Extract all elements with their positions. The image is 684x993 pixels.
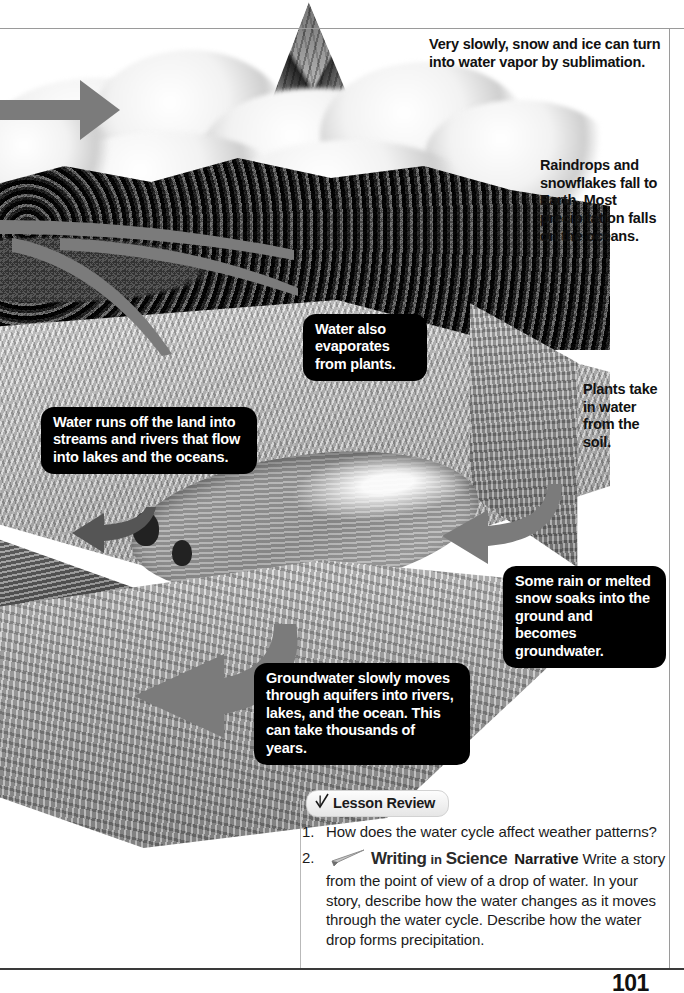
- footer-rule: [0, 968, 684, 970]
- question-number: 2.: [302, 848, 326, 950]
- pencil-icon: [326, 849, 366, 872]
- callout-text: Some rain or melted snow soaks into the …: [515, 573, 651, 659]
- question-item: 2. WritinginScienceNarrative Write a sto…: [302, 848, 672, 950]
- page-number: 101: [612, 970, 649, 993]
- arrow-precipitation-into-lake: [440, 480, 570, 570]
- writing-brand-science: Science: [446, 849, 507, 868]
- question-text: How does the water cycle affect weather …: [326, 822, 657, 842]
- writing-brand-writing: Writing: [371, 849, 426, 868]
- textbook-page: Water also evaporates from plants. Water…: [0, 0, 684, 993]
- water-cycle-diagram: Water also evaporates from plants. Water…: [0, 0, 684, 860]
- arrow-vapor-rise-3: [12, 236, 192, 356]
- callout-infiltration: Some rain or melted snow soaks into the …: [503, 566, 666, 668]
- callout-text: Water runs off the land into streams and…: [53, 414, 240, 465]
- label-sublimation: Very slowly, snow and ice can turn into …: [429, 36, 669, 71]
- lesson-review-title: Lesson Review: [333, 795, 435, 811]
- label-text: Plants take in water from the soil.: [583, 381, 657, 450]
- label-plant-uptake: Plants take in water from the soil.: [583, 381, 669, 452]
- question-text-writing: WritinginScienceNarrative Write a story …: [326, 848, 672, 950]
- writing-brand-in: in: [430, 852, 441, 867]
- question-number: 1.: [302, 822, 326, 842]
- callout-transpiration: Water also evaporates from plants.: [303, 314, 427, 381]
- label-text: Very slowly, snow and ice can turn into …: [429, 36, 660, 70]
- callout-runoff: Water runs off the land into streams and…: [41, 407, 257, 474]
- callout-text: Groundwater slowly moves through aquifer…: [266, 670, 454, 756]
- arrow-runoff-to-ocean: [70, 505, 160, 555]
- writing-genre: Narrative: [514, 850, 578, 867]
- header-rule: [0, 28, 684, 29]
- lesson-review-header: Lesson Review: [306, 790, 449, 817]
- callout-groundwater-flow: Groundwater slowly moves through aquifer…: [254, 663, 470, 765]
- lesson-review-questions: 1. How does the water cycle affect weath…: [302, 822, 672, 955]
- tree: [172, 540, 192, 566]
- callout-text: Water also evaporates from plants.: [315, 321, 396, 372]
- label-text: Raindrops and snowflakes fall to Earth. …: [540, 157, 657, 244]
- label-precipitation: Raindrops and snowflakes fall to Earth. …: [540, 157, 668, 245]
- checkmark-icon: [315, 793, 330, 813]
- question-item: 1. How does the water cycle affect weath…: [302, 822, 672, 842]
- arrow-evaporation-to-cloud: [0, 70, 124, 150]
